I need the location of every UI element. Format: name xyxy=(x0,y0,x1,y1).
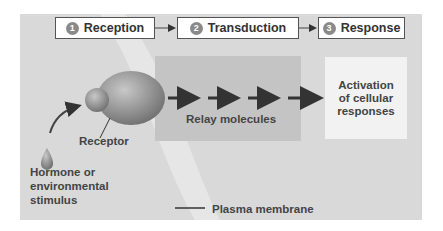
relay-label: Relay molecules xyxy=(186,112,276,126)
binding-arrow xyxy=(50,106,78,133)
membrane-label: Plasma membrane xyxy=(212,202,314,216)
receptor-label: Receptor xyxy=(79,134,129,148)
stimulus-label: Hormone or environmental stimulus xyxy=(30,165,109,207)
